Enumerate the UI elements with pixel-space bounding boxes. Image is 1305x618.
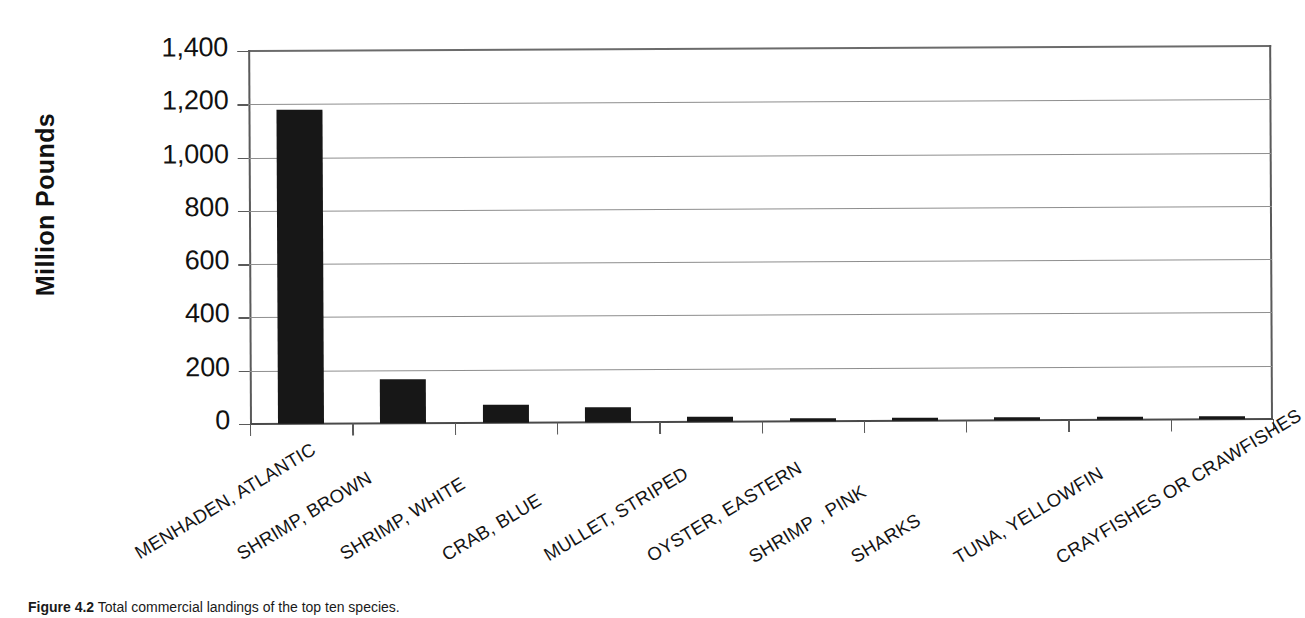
figure-caption: Figure 4.2 Total commercial landings of … bbox=[28, 599, 1178, 615]
x-axis-category-labels: MENHADEN, ATLANTICSHRIMP, BROWNSHRIMP, W… bbox=[0, 0, 1305, 618]
caption-label: Figure 4.2 bbox=[28, 599, 94, 615]
bar-chart: Million Pounds 02004006008001,0001,2001,… bbox=[0, 0, 1305, 618]
x-axis-category-label: MENHADEN, ATLANTIC bbox=[131, 438, 320, 563]
caption-text: Total commercial landings of the top ten… bbox=[94, 599, 400, 615]
x-axis-category-label: SHARKS bbox=[847, 509, 925, 568]
